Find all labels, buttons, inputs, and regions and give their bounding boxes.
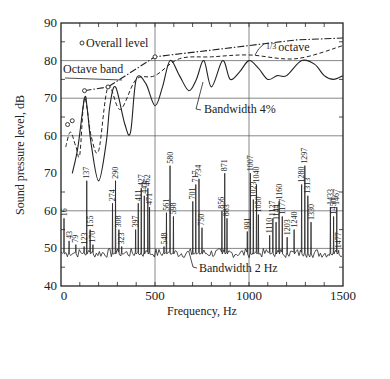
y-tick-label: 90 bbox=[44, 15, 57, 30]
peak-label: 137 bbox=[82, 167, 91, 179]
peak-label: 1050 bbox=[254, 197, 263, 213]
annotation-bandwidth-4pct: Bandwidth 4% bbox=[204, 102, 276, 116]
peak-label: 170 bbox=[88, 231, 97, 243]
spectrum-chart: 9080706070605040 050010001500 1643791231… bbox=[0, 0, 390, 379]
peak-label: 308 bbox=[114, 216, 123, 228]
x-tick-label: 0 bbox=[61, 288, 68, 303]
y-tick-label: 70 bbox=[44, 90, 57, 105]
peak-label: 1023 bbox=[249, 182, 258, 198]
peak-label: 16 bbox=[60, 208, 69, 216]
y-tick-label: 80 bbox=[44, 53, 57, 68]
y-tick-label: 50 bbox=[44, 240, 57, 255]
x-tick-label: 1000 bbox=[236, 288, 262, 303]
octave-band-marker bbox=[153, 55, 157, 59]
peak-label: 580 bbox=[166, 152, 175, 164]
overall-level-markers bbox=[66, 119, 75, 127]
peak-label: 290 bbox=[111, 167, 120, 179]
peak-label: 1313 bbox=[303, 178, 312, 194]
annotation-bandwidth-2hz: Bandwidth 2 Hz bbox=[199, 261, 278, 275]
peak-label: 471 bbox=[145, 193, 154, 205]
peak-label: 1477 bbox=[334, 232, 343, 248]
annotation-overall-level: Overall level bbox=[86, 36, 149, 50]
y-axis-title: Sound pressure level, dB bbox=[13, 95, 27, 215]
x-tick-label: 1500 bbox=[330, 288, 356, 303]
peak-label: 548 bbox=[160, 233, 169, 245]
y-tick-label: 60 bbox=[44, 128, 57, 143]
peak-label: 1240 bbox=[290, 212, 299, 228]
octave-band-marker bbox=[83, 89, 87, 93]
annotation-octave-band: Octave band bbox=[63, 62, 123, 76]
peak-label: 1160 bbox=[275, 184, 284, 200]
peak-label: 1177 bbox=[278, 199, 287, 215]
peak-label: 323 bbox=[117, 233, 126, 245]
x-tick-label: 500 bbox=[145, 288, 165, 303]
peak-label: 871 bbox=[220, 159, 229, 171]
peak-label: 274 bbox=[108, 189, 117, 201]
peak-label: 1297 bbox=[300, 148, 309, 164]
y-axis-tick-labels: 9080706070605040 bbox=[44, 15, 57, 293]
peak-label: 598 bbox=[169, 202, 178, 214]
third-fraction: 1/3 bbox=[266, 42, 276, 51]
peak-label: 155 bbox=[86, 216, 95, 228]
peak-label: 883 bbox=[223, 204, 232, 216]
peak-label: 1330 bbox=[307, 204, 316, 220]
octave-band-leader bbox=[65, 78, 122, 80]
overall-level-legend-marker bbox=[80, 41, 84, 45]
y-tick-label: 70 bbox=[44, 165, 57, 180]
overall-level-marker bbox=[70, 119, 74, 123]
x-axis-title: Frequency, Hz bbox=[167, 304, 237, 318]
peak-label: 991 bbox=[243, 217, 252, 229]
y-tick-label: 40 bbox=[44, 278, 57, 293]
octave-band-marker bbox=[106, 85, 110, 89]
peak-label: 397 bbox=[131, 216, 140, 228]
overall-level-marker bbox=[66, 123, 70, 127]
peak-frequency-labels: 1643791231371551702742903083233974114274… bbox=[60, 148, 344, 249]
x-axis-tick-labels: 050010001500 bbox=[61, 288, 356, 303]
annotation-third-octave: 1/3octave bbox=[266, 40, 310, 54]
peak-label: 750 bbox=[198, 214, 207, 226]
peak-label: 462 bbox=[143, 174, 152, 186]
y-tick-label: 60 bbox=[44, 203, 57, 218]
third-octave-leader bbox=[255, 44, 264, 55]
peak-label: 734 bbox=[194, 165, 203, 177]
bandwidth-4pct-leader bbox=[196, 82, 203, 110]
third-octave-word: octave bbox=[278, 40, 309, 54]
peak-label: 701 bbox=[188, 187, 197, 199]
peak-label: 1040 bbox=[252, 166, 261, 182]
peak-label: 123 bbox=[80, 233, 89, 245]
peak-label: 1467 bbox=[332, 189, 341, 205]
